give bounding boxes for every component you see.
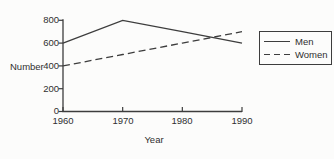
chart-container: 800 600 400 200 0 Number 1960 1970 1980 … [0,0,334,159]
x-axis-title: Year [134,135,174,145]
legend-label-women: Women [295,49,328,60]
x-tick-label: 1970 [108,116,138,126]
legend-label-men: Men [295,36,313,47]
y-tick-label: 800 [33,15,59,25]
x-tick-label: 1960 [48,116,78,126]
x-tick-label: 1980 [167,116,197,126]
legend-item-women: Women [264,49,327,60]
x-tick-label: 1990 [227,116,257,126]
y-tick-label: 600 [33,38,59,48]
y-tick-label: 200 [33,84,59,94]
solid-line-icon [264,41,290,43]
y-axis-title: Number [10,62,44,72]
legend-item-men: Men [264,36,327,47]
legend-box: Men Women [259,31,332,65]
dashed-line-icon [264,54,290,56]
men-series-line [63,20,242,43]
women-series-line [63,32,242,66]
